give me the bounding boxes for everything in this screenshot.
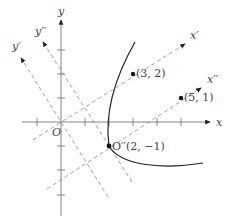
point-o-double-prime xyxy=(107,144,112,149)
y-double-prime-label: y′′ xyxy=(35,26,46,37)
point-3-2-label: (3, 2) xyxy=(136,68,166,79)
y-prime-label: y′ xyxy=(12,41,21,52)
x-double-prime-axis xyxy=(47,88,201,189)
y-prime-axis xyxy=(21,58,108,197)
origin-label: O xyxy=(52,127,61,138)
point-3-2 xyxy=(131,72,135,76)
x-double-prime-label: x′′ xyxy=(207,74,218,85)
y-axis-label: y xyxy=(58,6,64,17)
y-double-prime-axis xyxy=(43,42,132,182)
x-prime-label: x′ xyxy=(190,30,199,41)
point-5-1 xyxy=(179,96,183,100)
point-5-1-label: (5, 1) xyxy=(184,92,214,103)
x-axis-label: x xyxy=(216,117,222,128)
point-o-double-prime-label: O′′(2, −1) xyxy=(112,141,165,152)
diagram: y x O x′ y′ x′′ y′′ (3, 2) (5, 1) O′′(2,… xyxy=(0,0,234,224)
